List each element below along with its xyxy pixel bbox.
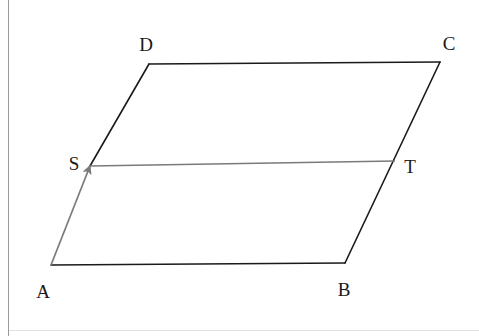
edge-cd bbox=[149, 62, 440, 64]
vertex-label-t: T bbox=[404, 157, 416, 176]
vertex-label-a: A bbox=[36, 282, 50, 301]
segment-st bbox=[90, 161, 395, 166]
edge-ds bbox=[90, 64, 149, 166]
vertex-label-b: B bbox=[338, 280, 351, 299]
geometry-figure: A B C D S T bbox=[0, 0, 479, 336]
edge-ab bbox=[51, 263, 345, 265]
edge-bc bbox=[345, 62, 440, 263]
vertex-label-s: S bbox=[69, 154, 80, 173]
vertex-label-c: C bbox=[443, 34, 456, 53]
vertex-label-d: D bbox=[139, 35, 153, 54]
vector-as-arrow bbox=[51, 166, 90, 265]
